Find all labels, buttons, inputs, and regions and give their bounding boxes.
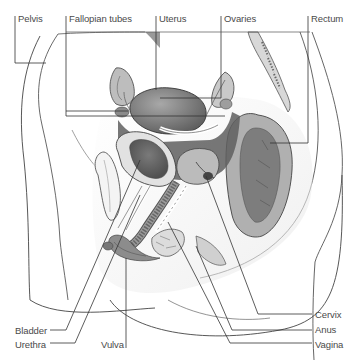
label-uterus: Uterus <box>159 13 186 24</box>
label-fallopian-tubes: Fallopian tubes <box>69 13 132 24</box>
label-pelvis: Pelvis <box>18 13 43 24</box>
label-bladder: Bladder <box>15 325 47 336</box>
label-cervix: Cervix <box>315 309 341 320</box>
anatomy-diagram: Pelvis Fallopian tubes Uterus Ovaries Re… <box>0 0 359 360</box>
label-vulva: Vulva <box>101 339 124 350</box>
label-anus: Anus <box>315 324 336 335</box>
anatomy-illustration <box>0 0 359 360</box>
label-ovaries: Ovaries <box>224 13 256 24</box>
cervix <box>177 148 219 184</box>
label-rectum: Rectum <box>311 13 343 24</box>
label-vagina: Vagina <box>315 339 343 350</box>
label-urethra: Urethra <box>15 339 46 350</box>
